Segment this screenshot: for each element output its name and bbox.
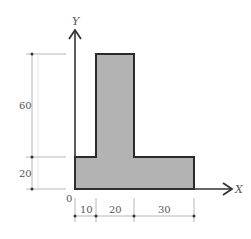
x-axis-label: X	[234, 183, 244, 196]
y-axis-label: Y	[72, 15, 81, 28]
dimension-label-10: 10	[80, 204, 93, 215]
dimension-label-60: 60	[19, 100, 32, 111]
horizontal-dimension	[75, 198, 194, 222]
origin-label: 0	[66, 193, 72, 204]
l-section-diagram: Y X 0 60 20 10 20 30	[0, 0, 251, 239]
dimension-label-20-vertical: 20	[19, 168, 32, 179]
vertical-dimension	[26, 54, 66, 189]
dimension-label-20-horizontal: 20	[109, 204, 122, 215]
dimension-label-30: 30	[158, 204, 171, 215]
l-shape	[75, 54, 194, 189]
